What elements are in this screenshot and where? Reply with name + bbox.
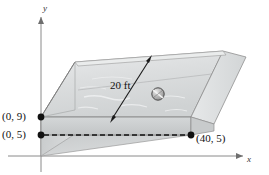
pool-front-wall bbox=[41, 117, 191, 135]
beach-ball bbox=[152, 88, 164, 100]
x-axis-arrowhead bbox=[236, 153, 243, 159]
point-dot-0-9 bbox=[38, 114, 45, 121]
point-label-0-5: (0, 5) bbox=[2, 129, 26, 140]
point-dot-40-5 bbox=[188, 132, 195, 139]
point-label-0-9: (0, 9) bbox=[2, 111, 26, 122]
y-axis-arrowhead bbox=[38, 17, 44, 24]
y-axis-label: y bbox=[43, 4, 47, 13]
x-axis-label: x bbox=[247, 155, 251, 164]
diagram-canvas bbox=[0, 0, 269, 175]
pool-diagram-figure: (0, 9) (0, 5) (40, 5) 20 ft y x bbox=[0, 0, 269, 175]
point-label-40-5: (40, 5) bbox=[196, 133, 225, 144]
dimension-label-20ft: 20 ft bbox=[110, 80, 130, 91]
point-dot-0-5 bbox=[38, 132, 45, 139]
